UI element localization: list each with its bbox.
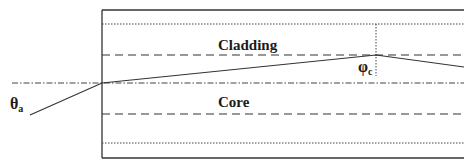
- acceptance-angle-label: θa: [10, 95, 23, 114]
- acceptance-angle-subscript: a: [18, 103, 23, 114]
- core-label: Core: [218, 94, 250, 110]
- critical-angle-subscript: c: [368, 66, 373, 77]
- critical-angle-label: φc: [358, 58, 373, 77]
- acceptance-angle-symbol: θ: [10, 95, 18, 112]
- cladding-label: Cladding: [218, 37, 278, 53]
- critical-angle-symbol: φ: [358, 58, 368, 76]
- fiber-diagram: Cladding Core θa φc: [0, 0, 464, 167]
